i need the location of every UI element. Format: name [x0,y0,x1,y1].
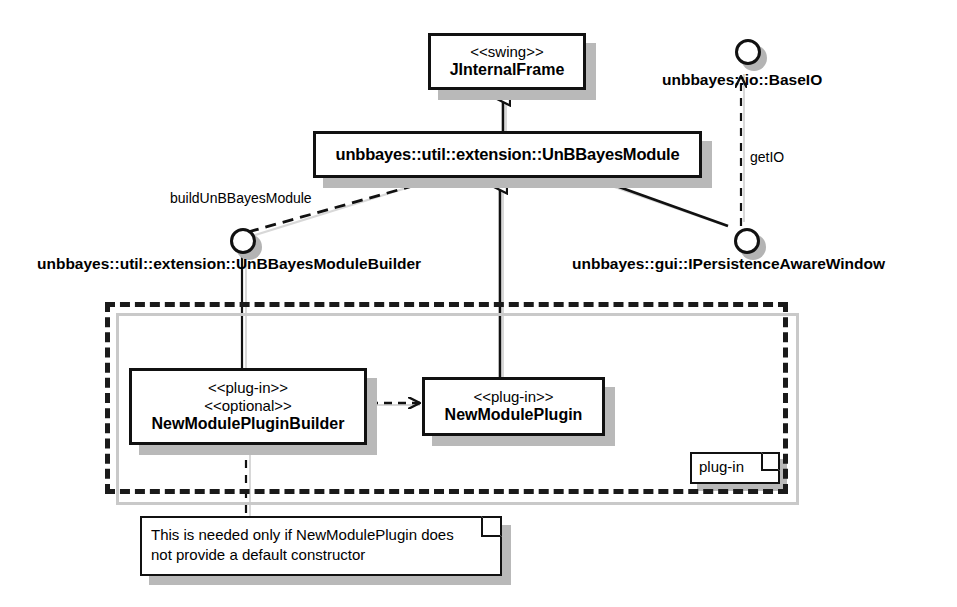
uml-diagram-canvas: UnBBayesModule (buildUnBBayesModule) -->… [0,0,957,607]
class-name: unbbayes::util::extension::UnBBayesModul… [336,145,680,164]
class-newmodulepluginbuilder[interactable]: <<plug-in>> <<optional>> NewModulePlugin… [129,368,367,445]
class-unbbayesmodule[interactable]: unbbayes::util::extension::UnBBayesModul… [313,131,702,178]
interface-circle-ipersistenceawarewindow[interactable] [734,228,760,254]
edge-label-buildunbbayesmodule: buildUnBBayesModule [170,190,312,206]
edge-label-getio: getIO [750,149,784,165]
note-default-constructor[interactable]: This is needed only if NewModulePlugin d… [140,516,502,576]
corner-fold-icon [481,516,502,537]
class-stereotype-plugin: <<plug-in>> [473,388,553,406]
interface-label-baseio: unbbayes::io::BaseIO [662,71,822,89]
note-line-2: not provide a default constructor [151,545,491,565]
corner-fold-icon [761,452,780,471]
interface-circle-unbbayesmodulebuilder[interactable] [230,228,256,254]
interface-label-ipersistenceawarewindow: unbbayes::gui::IPersistenceAwareWindow [572,255,885,273]
class-stereotype: <<swing>> [470,43,543,61]
package-tab-plugin[interactable]: plug-in [690,452,780,484]
class-jinternalframe[interactable]: <<swing>> JInternalFrame [428,33,586,90]
note-line-1: This is needed only if NewModulePlugin d… [151,525,491,545]
class-name: NewModulePlugin [445,406,583,425]
interface-circle-baseio[interactable] [735,39,761,65]
class-name: NewModulePluginBuilder [152,415,345,434]
class-name: JInternalFrame [450,61,565,80]
class-newmoduleplugin[interactable]: <<plug-in>> NewModulePlugin [422,377,605,436]
package-tab-label: plug-in [699,458,744,475]
interface-label-unbbayesmodulebuilder: unbbayes::util::extension::UnBBayesModul… [37,255,421,273]
class-stereotype-plugin: <<plug-in>> [208,379,288,397]
class-stereotype-optional: <<optional>> [204,397,292,415]
